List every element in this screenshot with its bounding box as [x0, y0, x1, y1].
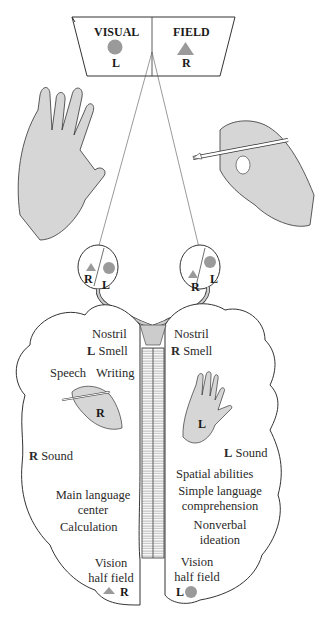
left-hand-illustration [18, 88, 105, 241]
writing-label: Writing [96, 366, 134, 381]
optic-chiasm [140, 325, 166, 345]
right-vision-half-field-label: Visionhalf field [172, 555, 222, 585]
visual-label: VISUAL [94, 25, 139, 40]
circle-icon [185, 586, 197, 598]
left-eye-letter-r: R [84, 272, 93, 287]
speech-label: Speech [50, 366, 86, 381]
circle-icon [108, 40, 123, 55]
writing-hand-illustration [193, 121, 314, 226]
main-language-center-label: Main languagecenter [48, 488, 138, 518]
right-hand-letter: L [198, 417, 206, 432]
right-eye-letter-r: R [191, 280, 200, 295]
left-smell-label: L Smell [87, 344, 128, 359]
left-hand-letter: R [96, 406, 105, 421]
left-eye-letter-l: L [102, 278, 110, 293]
left-sound-label: R Sound [29, 449, 73, 464]
right-vision-letter: L [176, 585, 184, 600]
brain-diagram [0, 0, 331, 620]
nonverbal-ideation-label: Nonverbalideation [180, 518, 260, 548]
field-label: FIELD [173, 25, 210, 40]
left-nostril-label: Nostril [92, 327, 127, 342]
spatial-abilities-label: Spatial abilities [176, 467, 253, 482]
simple-language-comprehension-label: Simple languagecomprehension [170, 484, 270, 514]
left-vision-letter: R [120, 585, 129, 600]
corpus-callosum [142, 348, 164, 558]
right-smell-label: R Smell [171, 344, 212, 359]
right-eye-letter-l: L [210, 272, 218, 287]
visual-field-right-letter: R [182, 56, 191, 71]
right-sound-label: L Sound [224, 446, 267, 461]
left-vision-half-field-label: Visionhalf field [86, 556, 136, 586]
calculation-label: Calculation [60, 520, 118, 535]
visual-field-left-letter: L [112, 56, 120, 71]
right-nostril-label: Nostril [174, 327, 209, 342]
